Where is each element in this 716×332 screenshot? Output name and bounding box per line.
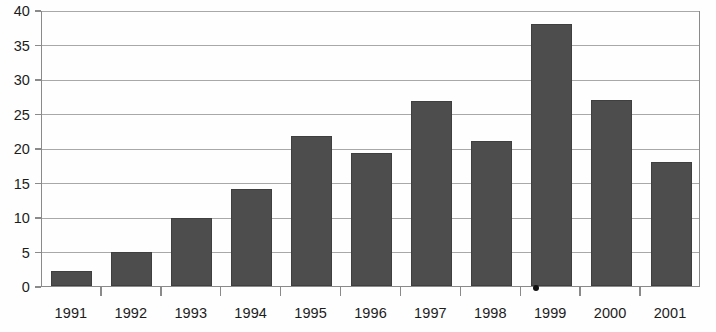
x-tick-mark-4	[340, 287, 342, 296]
bar-2001	[651, 162, 692, 286]
x-tick-label-1999: 1999	[520, 306, 580, 321]
bar-1999	[531, 24, 572, 286]
x-tick-label-1995: 1995	[281, 306, 341, 321]
x-tick-label-1998: 1998	[460, 306, 520, 321]
y-tick-label-10: 10	[0, 211, 30, 226]
bar-1996	[351, 153, 392, 286]
x-tick-label-1993: 1993	[161, 306, 221, 321]
y-tick-label-40: 40	[0, 4, 30, 19]
bar-1998	[471, 141, 512, 286]
y-tick-label-25: 25	[0, 107, 30, 122]
plot-area	[41, 11, 700, 287]
x-tick-mark-3	[280, 287, 282, 296]
y-tick-label-15: 15	[0, 176, 30, 191]
gridline-30	[42, 80, 699, 81]
x-tick-label-1997: 1997	[400, 306, 460, 321]
x-tick-mark-1	[160, 287, 162, 296]
x-tick-label-1992: 1992	[101, 306, 161, 321]
bar-1994	[231, 189, 272, 286]
gridline-35	[42, 45, 699, 46]
x-tick-label-2000: 2000	[580, 306, 640, 321]
x-tick-label-1991: 1991	[41, 306, 101, 321]
y-tick-label-30: 30	[0, 73, 30, 88]
y-tick-label-0: 0	[0, 280, 30, 295]
bar-2000	[591, 100, 632, 286]
bar-1991	[51, 271, 92, 286]
x-tick-mark-8	[579, 287, 581, 296]
scan-speck	[533, 285, 539, 291]
x-tick-mark-9	[639, 287, 641, 296]
x-tick-label-1994: 1994	[221, 306, 281, 321]
bar-1993	[171, 218, 212, 286]
x-tick-label-1996: 1996	[341, 306, 401, 321]
x-tick-mark-6	[460, 287, 462, 296]
gridline-40	[42, 11, 699, 12]
x-tick-mark-0	[100, 287, 102, 296]
y-tick-label-35: 35	[0, 38, 30, 53]
bar-1995	[291, 136, 332, 286]
x-tick-mark-5	[400, 287, 402, 296]
x-tick-mark-2	[220, 287, 222, 296]
y-tick-label-5: 5	[0, 245, 30, 260]
x-tick-mark-7	[520, 287, 522, 296]
bar-1997	[411, 101, 452, 286]
x-tick-label-2001: 2001	[640, 306, 700, 321]
bar-1992	[111, 252, 152, 287]
bar-chart: 0510152025303540 19911992199319941995199…	[0, 0, 716, 332]
y-tick-label-20: 20	[0, 142, 30, 157]
